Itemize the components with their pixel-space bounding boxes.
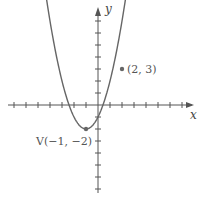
y-axis-arrow-icon [95,7,101,16]
y-axis-label: y [104,2,112,16]
x-axis [8,102,194,108]
vertex-label: V(−1, −2) [35,135,92,148]
parabola-curve [43,0,129,129]
vertex-point [84,127,88,131]
point-label: (2, 3) [127,63,157,76]
point-2-3 [120,67,124,71]
x-axis-label: x [190,108,197,122]
parabola-chart: (2, 3) V(−1, −2) x y [0,0,199,199]
